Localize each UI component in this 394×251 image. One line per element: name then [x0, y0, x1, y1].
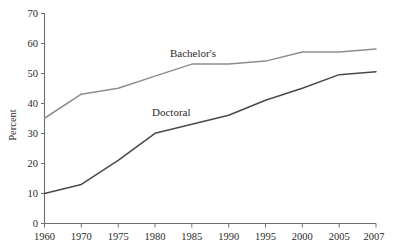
y-tick-label-10: 10	[28, 188, 39, 199]
line-chart: Percent 70 60 50 40 30 20 10 0	[0, 0, 394, 251]
x-tick-label-1990: 1990	[218, 231, 239, 242]
x-tick-label-2007: 2007	[364, 231, 385, 242]
x-tick-label-1980: 1980	[145, 231, 166, 242]
y-tick-label-60: 60	[28, 38, 39, 49]
y-tick-label-0: 0	[33, 218, 38, 229]
x-tick-label-2000: 2000	[292, 231, 313, 242]
x-tick-label-1975: 1975	[108, 231, 129, 242]
y-axis-title: Percent	[7, 109, 18, 141]
series-line-doctoral	[45, 72, 377, 194]
y-tick-label-30: 30	[28, 128, 39, 139]
x-tick-label-1960: 1960	[34, 231, 55, 242]
x-tick-label-1985: 1985	[181, 231, 202, 242]
series-label-bachelors: Bachelor's	[170, 47, 216, 59]
series-label-doctoral: Doctoral	[152, 106, 190, 118]
y-tick-label-50: 50	[28, 68, 39, 79]
x-tick-label-2005: 2005	[329, 231, 350, 242]
y-tick-label-20: 20	[28, 158, 39, 169]
x-tick-label-1995: 1995	[255, 231, 276, 242]
series-line-bachelors	[45, 49, 377, 118]
x-tick-label-1970: 1970	[71, 231, 92, 242]
y-tick-label-70: 70	[28, 8, 39, 19]
y-tick-label-40: 40	[28, 98, 39, 109]
chart-container: Percent 70 60 50 40 30 20 10 0	[0, 0, 394, 251]
